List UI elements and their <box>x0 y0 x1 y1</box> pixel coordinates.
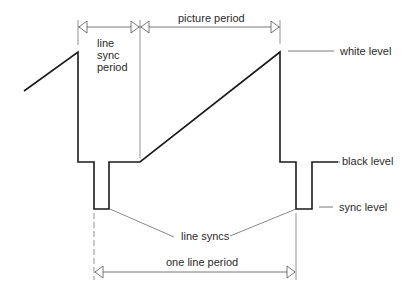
black-level-label: black level <box>342 155 393 167</box>
one-line-period-label: one line period <box>166 256 238 268</box>
line-sync-period-line1: line <box>97 37 137 49</box>
video-waveform <box>24 52 338 209</box>
line-sync-period-line3: period <box>97 61 137 73</box>
white-level-label: white level <box>340 45 391 57</box>
line-syncs-label: line syncs <box>181 230 229 242</box>
picture-period-label: picture period <box>178 12 245 24</box>
line-sync-period-label: line sync period <box>97 37 137 73</box>
sync-level-label: sync level <box>339 201 387 213</box>
line-sync-period-line2: sync <box>97 49 137 61</box>
